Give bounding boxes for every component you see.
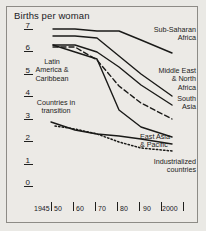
chart-plot-area bbox=[0, 0, 206, 231]
series-line-countries-in-transition bbox=[51, 122, 172, 144]
chart-figure: Births per woman 7 6 5 4 3 2 1 0 1945 50… bbox=[0, 0, 206, 231]
series-line-east-asia-pacific bbox=[53, 45, 172, 137]
series-line-sub-saharan-africa bbox=[53, 29, 172, 53]
